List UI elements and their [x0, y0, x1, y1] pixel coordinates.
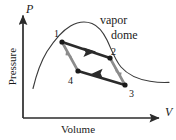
state-point-3-dot: [122, 82, 127, 87]
dome-annotation-label: dome: [111, 29, 138, 41]
pv-diagram-figure: P V Volume Pressure vapor dome 1 2 3 4: [0, 0, 176, 140]
axis-frame: [23, 16, 159, 119]
state-point-2-label: 2: [111, 47, 116, 57]
state-point-4-dot: [75, 68, 80, 73]
vapor-annotation-label: vapor: [100, 14, 127, 26]
x-axis-symbol-label: V: [165, 106, 172, 118]
state-point-1-label: 1: [54, 29, 59, 39]
state-point-3-label: 3: [129, 89, 134, 99]
pv-diagram-canvas: [0, 0, 176, 140]
state-point-4-label: 4: [68, 76, 73, 86]
state-point-1-dot: [59, 39, 64, 44]
arrowhead-1-2: [83, 47, 96, 57]
x-axis-name-label: Volume: [61, 124, 95, 135]
y-axis-name-label: Pressure: [7, 42, 18, 92]
y-axis-symbol-label: P: [26, 3, 33, 15]
